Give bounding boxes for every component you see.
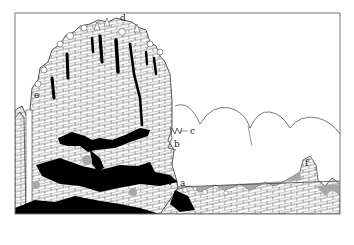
hill-divide: [248, 126, 252, 146]
label-d: d: [120, 13, 126, 23]
label-a: a: [180, 178, 186, 188]
left-pillar: [15, 112, 26, 214]
label-e: e: [34, 90, 39, 100]
label-b: b: [174, 139, 180, 149]
label-c: c: [190, 126, 195, 136]
residual-hills-outline: [175, 105, 340, 134]
chimney-e: [26, 110, 32, 214]
geological-diagram: a b c d e f: [0, 0, 354, 245]
